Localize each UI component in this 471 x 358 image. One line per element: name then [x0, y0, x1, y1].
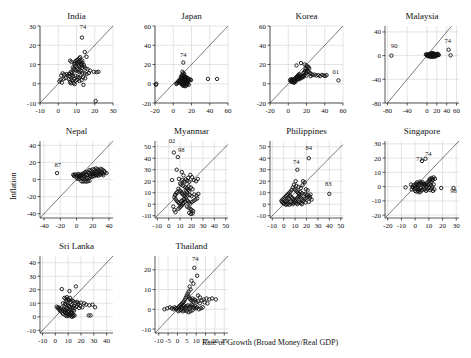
data-point — [404, 186, 407, 189]
panel-japan: Japan74-200204060-200204060 — [123, 8, 238, 123]
panel-title: Myanmar — [174, 126, 209, 136]
data-point — [85, 55, 88, 58]
data-point — [182, 61, 185, 64]
y-axis-label: Inflation — [9, 172, 18, 200]
y-tick-label: -10 — [142, 212, 152, 220]
x-tick-label: 20 — [91, 107, 99, 115]
data-point — [180, 170, 183, 173]
x-tick-label: 40 — [326, 222, 334, 230]
x-tick-label: 20 — [439, 222, 447, 230]
scatter-plot-matrix-figure: India74-100102030-100102030Japan74-20020… — [0, 0, 471, 358]
x-tick-label: -40 — [39, 222, 49, 230]
point-annotation: 74 — [180, 51, 187, 58]
x-tick-label: 10 — [292, 222, 300, 230]
y-tick-label: -10 — [27, 327, 37, 335]
x-tick-label: -10 — [35, 107, 45, 115]
y-tick-label: 30 — [29, 23, 37, 31]
x-tick-label: 10 — [65, 337, 73, 345]
y-tick-label: -20 — [372, 212, 382, 220]
x-tick-label: 20 — [188, 222, 196, 230]
y-tick-label: 40 — [144, 42, 152, 50]
y-tick-label: 20 — [29, 286, 37, 294]
data-point — [193, 266, 196, 269]
x-tick-label: 10 — [73, 107, 81, 115]
x-tick-label: 60 — [225, 107, 233, 115]
y-tick-label: 20 — [374, 155, 382, 163]
data-point — [447, 48, 450, 51]
x-tick-label: -20 — [150, 107, 160, 115]
x-tick-label: 20 — [77, 337, 85, 345]
panel-title: Malaysia — [406, 11, 439, 21]
x-tick-label: 0 — [75, 222, 79, 230]
x-tick-label: 10 — [425, 222, 433, 230]
data-point — [74, 285, 77, 288]
y-tick-label: 30 — [29, 273, 37, 281]
x-tick-label: 60 — [340, 107, 348, 115]
x-tick-label: 0 — [425, 107, 429, 115]
data-point — [215, 77, 218, 80]
y-tick-label: 20 — [29, 42, 37, 50]
y-tick-label: -40 — [27, 210, 37, 218]
x-tick-label: 50 — [222, 222, 230, 230]
data-point — [172, 151, 175, 154]
y-tick-label: 40 — [29, 142, 37, 150]
y-tick-label: 0 — [33, 176, 37, 184]
data-point — [83, 50, 86, 53]
y-tick-label: 30 — [259, 166, 267, 174]
data-point — [182, 174, 185, 177]
x-tick-label: -10 — [153, 222, 163, 230]
y-tick-label: 20 — [144, 266, 152, 274]
y-tick-label: 60 — [144, 23, 152, 31]
data-point — [424, 157, 427, 160]
y-tick-label: -10 — [27, 100, 37, 108]
panel-korea: Korea01-200204060-200204060 — [238, 8, 353, 123]
y-tick-label: -20 — [142, 100, 152, 108]
y-tick-label: -10 — [257, 212, 267, 220]
y-tick-label: 20 — [29, 159, 37, 167]
y-tick-label: 40 — [144, 155, 152, 163]
x-tick-label: 20 — [303, 222, 311, 230]
panel-india: India74-100102030-100102030 — [8, 8, 123, 123]
y-tick-label: -10 — [372, 197, 382, 205]
y-tick-label: 20 — [259, 178, 267, 186]
y-tick-label: -10 — [142, 326, 152, 334]
y-tick-label: 0 — [148, 306, 152, 314]
reference-line-45deg — [385, 141, 459, 218]
x-tick-label: 20 — [188, 107, 196, 115]
x-tick-label: 40 — [206, 107, 214, 115]
y-tick-label: 20 — [144, 178, 152, 186]
x-tick-label: 20 — [303, 107, 311, 115]
x-tick-label: 20 — [89, 222, 97, 230]
x-tick-label: 0 — [54, 337, 58, 345]
data-point — [94, 99, 97, 102]
x-tick-label: 40 — [211, 222, 219, 230]
point-annotation: 74 — [80, 23, 87, 30]
panel-singapore: Singapore737498-20-100102030-20-10010203… — [353, 123, 469, 238]
point-annotation: 84 — [306, 144, 313, 151]
data-point — [60, 287, 63, 290]
reference-line-45deg — [40, 256, 113, 333]
panel-title: Korea — [296, 11, 318, 21]
x-tick-label: 60 — [453, 107, 461, 115]
x-tick-label: 0 — [287, 107, 291, 115]
reference-line-45deg — [155, 256, 228, 333]
data-point — [214, 298, 217, 301]
x-tick-label: -20 — [265, 107, 275, 115]
y-tick-label: 10 — [144, 286, 152, 294]
x-tick-label: 40 — [321, 107, 329, 115]
panel-philippines: Philippines847483-1001020304050-10010203… — [238, 123, 353, 238]
panel-thailand: Thailand74-10-50510152025-1001020 — [123, 238, 238, 353]
panel-title: Philippines — [286, 126, 327, 136]
panel-title: Japan — [181, 11, 202, 21]
y-tick-label: 0 — [263, 201, 267, 209]
y-tick-label: -20 — [27, 193, 37, 201]
point-annotation: 98 — [178, 146, 185, 153]
panel-myanmar: Myanmar0298-1001020304050-1001020304050 — [123, 123, 238, 238]
y-tick-label: 0 — [378, 52, 382, 60]
panel-title: Nepal — [66, 126, 88, 136]
x-tick-label: 0 — [57, 107, 61, 115]
y-tick-label: 0 — [378, 183, 382, 191]
x-tick-label: -10 — [397, 222, 407, 230]
y-tick-label: 10 — [29, 300, 37, 308]
reference-line-45deg — [387, 26, 451, 103]
